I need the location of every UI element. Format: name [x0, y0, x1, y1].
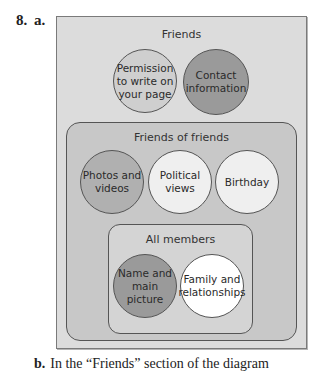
circle-contact-information: Contact information: [183, 49, 249, 115]
part-b-label: b.: [34, 356, 45, 371]
circle-name-and-main-picture: Name and main picture: [113, 254, 177, 318]
circle-permission-to-write: Permission to write on your page: [113, 49, 177, 113]
circle-family-and-relationships: Family and relationships: [180, 254, 244, 318]
circle-label: Photos and videos: [81, 169, 143, 195]
question-number: 8.: [16, 12, 27, 29]
circle-photos-and-videos: Photos and videos: [80, 150, 144, 214]
circle-label: Contact information: [184, 69, 248, 95]
part-b-prompt: b.In the “Friends” section of the diagra…: [34, 356, 269, 372]
circle-label: Name and main picture: [114, 267, 176, 306]
circle-label: Political views: [149, 169, 211, 195]
circle-birthday: Birthday: [215, 150, 279, 214]
friends-title: Friends: [56, 28, 307, 41]
circle-label: Birthday: [225, 176, 270, 189]
circle-label: Permission to write on your page: [114, 62, 176, 101]
circle-label: Family and relationships: [178, 273, 245, 299]
all-members-title: All members: [108, 233, 253, 246]
circle-political-views: Political views: [148, 150, 212, 214]
friends-of-friends-title: Friends of friends: [66, 131, 297, 144]
part-b-text: In the “Friends” section of the diagram: [50, 356, 268, 371]
part-a-label: a.: [34, 12, 45, 29]
